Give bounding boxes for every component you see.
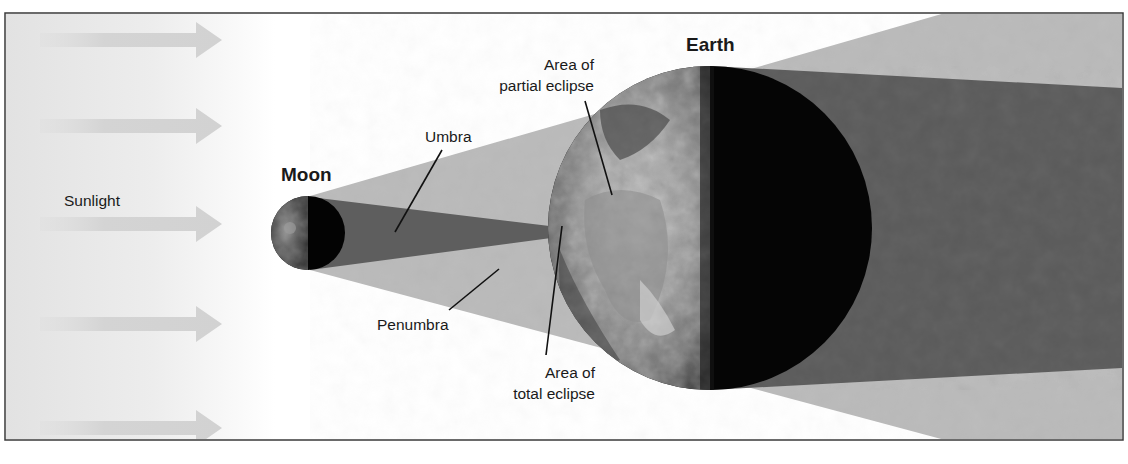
moon <box>271 196 345 270</box>
moon-label: Moon <box>281 164 332 185</box>
umbra-label: Umbra <box>425 128 472 145</box>
earth-label: Earth <box>686 34 735 55</box>
sunlight-label: Sunlight <box>64 192 121 209</box>
earth <box>548 66 872 390</box>
partial-eclipse-label-line2: partial eclipse <box>499 77 594 94</box>
total-eclipse-label-line1: Area of <box>545 364 596 381</box>
penumbra-label: Penumbra <box>377 316 449 333</box>
partial-eclipse-label-line1: Area of <box>544 56 595 73</box>
solar-eclipse-diagram: Sunlight Moon Earth Umbra Penumbra Area … <box>0 0 1128 464</box>
total-eclipse-label-line2: total eclipse <box>513 385 595 402</box>
